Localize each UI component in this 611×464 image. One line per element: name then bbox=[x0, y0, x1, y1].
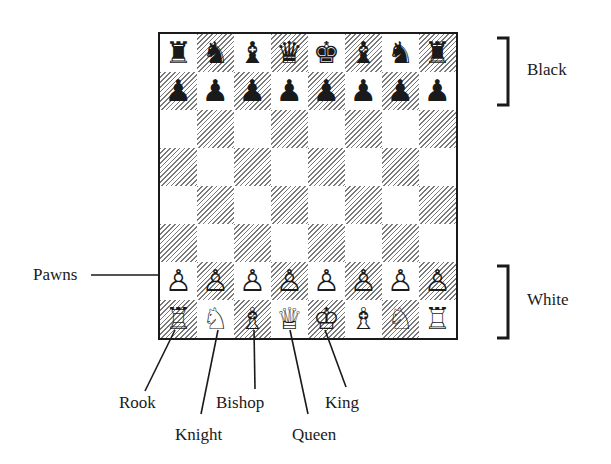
square-g7: ♟ bbox=[382, 72, 419, 110]
square-b5 bbox=[197, 148, 234, 186]
black-queen-icon: ♛ bbox=[276, 38, 303, 68]
square-d1: ♕ bbox=[271, 300, 308, 338]
square-a5 bbox=[160, 148, 197, 186]
queen-pointer bbox=[290, 330, 308, 414]
square-h4 bbox=[419, 186, 456, 224]
square-f3 bbox=[345, 224, 382, 262]
black-pawn-icon: ♟ bbox=[239, 76, 266, 106]
square-c4 bbox=[234, 186, 271, 224]
square-c7: ♟ bbox=[234, 72, 271, 110]
square-b3 bbox=[197, 224, 234, 262]
white-pawn-icon: ♙ bbox=[350, 266, 377, 296]
white-bracket bbox=[497, 266, 508, 338]
square-h5 bbox=[419, 148, 456, 186]
square-g6 bbox=[382, 110, 419, 148]
white-knight-icon: ♘ bbox=[387, 304, 414, 334]
square-g4 bbox=[382, 186, 419, 224]
square-e6 bbox=[308, 110, 345, 148]
square-h6 bbox=[419, 110, 456, 148]
black-king-icon: ♚ bbox=[313, 38, 340, 68]
square-c2: ♙ bbox=[234, 262, 271, 300]
square-d3 bbox=[271, 224, 308, 262]
square-f1: ♗ bbox=[345, 300, 382, 338]
black-pawn-icon: ♟ bbox=[202, 76, 229, 106]
square-e8: ♚ bbox=[308, 34, 345, 72]
square-b1: ♘ bbox=[197, 300, 234, 338]
black-knight-icon: ♞ bbox=[202, 38, 229, 68]
square-f2: ♙ bbox=[345, 262, 382, 300]
black-rook-icon: ♜ bbox=[165, 38, 192, 68]
square-a1: ♖ bbox=[160, 300, 197, 338]
square-d7: ♟ bbox=[271, 72, 308, 110]
square-c1: ♗ bbox=[234, 300, 271, 338]
square-f4 bbox=[345, 186, 382, 224]
square-b8: ♞ bbox=[197, 34, 234, 72]
label-bishop: Bishop bbox=[216, 393, 264, 413]
square-d5 bbox=[271, 148, 308, 186]
square-e1: ♔ bbox=[308, 300, 345, 338]
black-bishop-icon: ♝ bbox=[239, 38, 266, 68]
square-a8: ♜ bbox=[160, 34, 197, 72]
square-b4 bbox=[197, 186, 234, 224]
black-knight-icon: ♞ bbox=[387, 38, 414, 68]
white-knight-icon: ♘ bbox=[202, 304, 229, 334]
square-g2: ♙ bbox=[382, 262, 419, 300]
square-f5 bbox=[345, 148, 382, 186]
square-g3 bbox=[382, 224, 419, 262]
black-pawn-icon: ♟ bbox=[387, 76, 414, 106]
square-d4 bbox=[271, 186, 308, 224]
square-h3 bbox=[419, 224, 456, 262]
white-rook-icon: ♖ bbox=[165, 304, 192, 334]
square-b6 bbox=[197, 110, 234, 148]
label-knight: Knight bbox=[175, 425, 222, 445]
square-h7: ♟ bbox=[419, 72, 456, 110]
square-h8: ♜ bbox=[419, 34, 456, 72]
square-c3 bbox=[234, 224, 271, 262]
black-rook-icon: ♜ bbox=[424, 38, 451, 68]
square-f6 bbox=[345, 110, 382, 148]
square-h1: ♖ bbox=[419, 300, 456, 338]
white-pawn-icon: ♙ bbox=[424, 266, 451, 296]
square-d2: ♙ bbox=[271, 262, 308, 300]
black-pawn-icon: ♟ bbox=[424, 76, 451, 106]
square-e7: ♟ bbox=[308, 72, 345, 110]
black-bracket bbox=[497, 38, 508, 105]
square-a6 bbox=[160, 110, 197, 148]
white-pawn-icon: ♙ bbox=[165, 266, 192, 296]
square-a4 bbox=[160, 186, 197, 224]
white-bishop-icon: ♗ bbox=[350, 304, 377, 334]
square-h2: ♙ bbox=[419, 262, 456, 300]
black-pawn-icon: ♟ bbox=[276, 76, 303, 106]
square-f7: ♟ bbox=[345, 72, 382, 110]
label-queen: Queen bbox=[292, 425, 336, 445]
square-g5 bbox=[382, 148, 419, 186]
label-rook: Rook bbox=[119, 393, 156, 413]
square-a7: ♟ bbox=[160, 72, 197, 110]
square-e3 bbox=[308, 224, 345, 262]
square-e5 bbox=[308, 148, 345, 186]
square-a2: ♙ bbox=[160, 262, 197, 300]
black-pawn-icon: ♟ bbox=[313, 76, 340, 106]
square-c5 bbox=[234, 148, 271, 186]
square-d8: ♛ bbox=[271, 34, 308, 72]
label-king: King bbox=[325, 393, 359, 413]
square-f8: ♝ bbox=[345, 34, 382, 72]
black-pawn-icon: ♟ bbox=[350, 76, 377, 106]
label-black: Black bbox=[527, 60, 567, 80]
white-queen-icon: ♕ bbox=[276, 304, 303, 334]
white-rook-icon: ♖ bbox=[424, 304, 451, 334]
black-pawn-icon: ♟ bbox=[165, 76, 192, 106]
label-pawns: Pawns bbox=[33, 265, 77, 285]
square-d6 bbox=[271, 110, 308, 148]
white-pawn-icon: ♙ bbox=[239, 266, 266, 296]
white-pawn-icon: ♙ bbox=[387, 266, 414, 296]
black-bishop-icon: ♝ bbox=[350, 38, 377, 68]
chessboard: ♜♞♝♛♚♝♞♜♟♟♟♟♟♟♟♟♙♙♙♙♙♙♙♙♖♘♗♕♔♗♘♖ bbox=[158, 32, 458, 340]
square-c8: ♝ bbox=[234, 34, 271, 72]
square-b7: ♟ bbox=[197, 72, 234, 110]
square-a3 bbox=[160, 224, 197, 262]
white-king-icon: ♔ bbox=[313, 304, 340, 334]
square-c6 bbox=[234, 110, 271, 148]
label-white: White bbox=[527, 290, 569, 310]
white-pawn-icon: ♙ bbox=[202, 266, 229, 296]
